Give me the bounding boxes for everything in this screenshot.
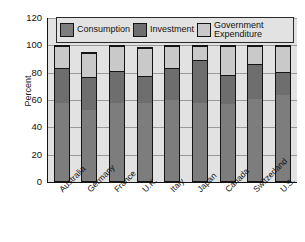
legend-item-government-expenditure: Government Expenditure <box>197 21 270 40</box>
segment-government <box>55 46 69 68</box>
legend-swatch-government-expenditure <box>197 23 211 37</box>
segment-investment <box>138 76 152 103</box>
segment-investment <box>193 60 207 103</box>
stacked-bar-chart: Percent 020406080100120 AustraliaGermany… <box>0 0 305 242</box>
segment-consumption <box>193 103 207 181</box>
segment-investment <box>82 77 96 109</box>
segment-government <box>221 46 235 74</box>
segment-investment <box>55 68 69 103</box>
bar-canada[interactable] <box>220 45 236 182</box>
segment-government <box>110 46 124 70</box>
legend-label-consumption: Consumption <box>77 25 130 35</box>
legend-label-investment: Investment <box>150 25 194 35</box>
segment-government <box>248 46 262 64</box>
segment-consumption <box>221 104 235 181</box>
segment-government <box>193 46 207 59</box>
segment-government <box>138 48 152 76</box>
y-axis-tick: 120 <box>16 13 42 22</box>
bar-switzerland[interactable] <box>247 45 263 182</box>
legend-swatch-investment <box>133 23 147 37</box>
segment-investment <box>110 71 124 103</box>
x-axis-tick-labels: AustraliaGermanyFranceU.K.ItalyJapanCana… <box>47 183 296 242</box>
y-axis-tick: 40 <box>16 122 42 131</box>
segment-investment <box>248 64 262 99</box>
bar-germany[interactable] <box>81 52 97 182</box>
legend-item-consumption: Consumption <box>60 23 130 37</box>
segment-government <box>82 53 96 77</box>
y-axis-tick-labels: 020406080100120 <box>12 0 42 242</box>
segment-consumption <box>165 100 179 181</box>
y-axis-tick: 0 <box>16 177 42 186</box>
y-axis-tick: 20 <box>16 150 42 159</box>
segment-government <box>276 46 290 72</box>
y-axis-tick: 100 <box>16 40 42 49</box>
y-axis-tick: 60 <box>16 95 42 104</box>
segment-consumption <box>138 103 152 181</box>
segment-investment <box>276 72 290 95</box>
segment-consumption <box>55 103 69 181</box>
legend-item-investment: Investment <box>133 23 194 37</box>
bar-france[interactable] <box>109 45 125 182</box>
y-axis-tick: 80 <box>16 68 42 77</box>
bar-u-k[interactable] <box>137 47 153 182</box>
bar-australia[interactable] <box>54 45 70 182</box>
segment-consumption <box>248 99 262 181</box>
segment-investment <box>221 75 235 105</box>
bar-japan[interactable] <box>192 45 208 182</box>
legend-swatch-consumption <box>60 23 74 37</box>
bar-italy[interactable] <box>164 45 180 182</box>
segment-investment <box>165 68 179 100</box>
segment-government <box>165 46 179 68</box>
chart-legend: Consumption Investment Government Expend… <box>56 17 294 43</box>
legend-label-government-expenditure: Government Expenditure <box>214 21 270 40</box>
